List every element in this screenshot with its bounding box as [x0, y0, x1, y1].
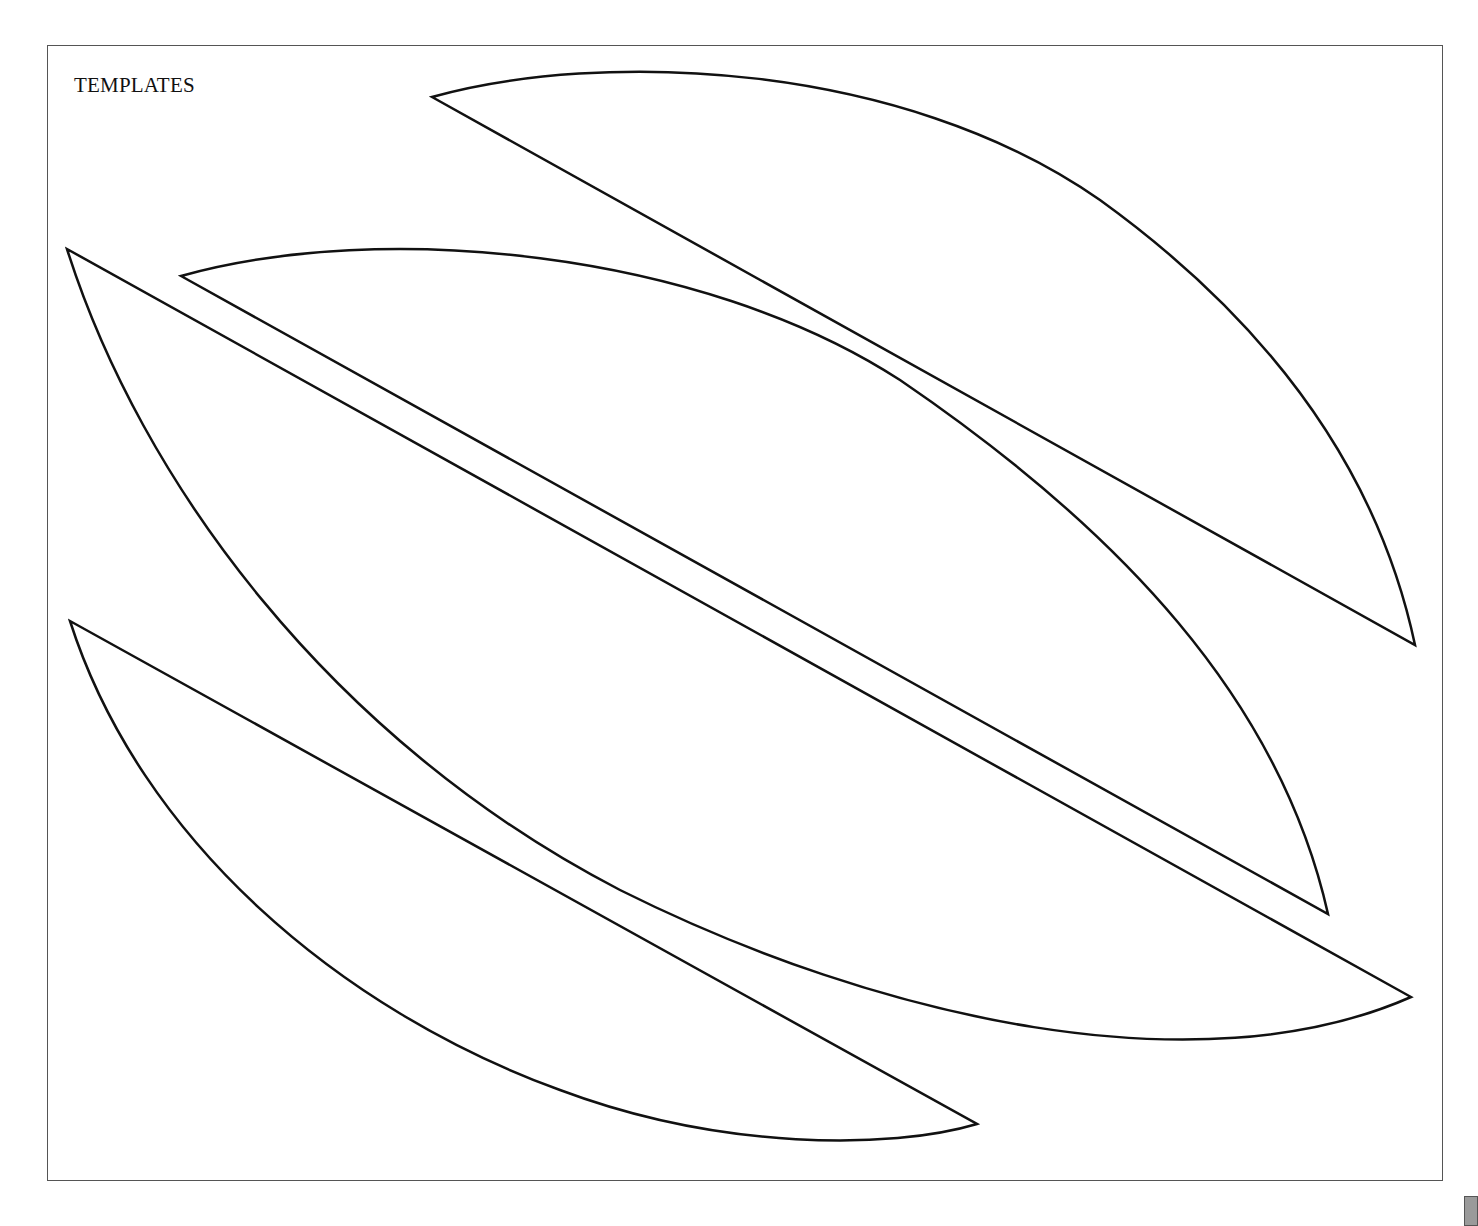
leaf-template-4: [70, 621, 977, 1141]
leaf-template-3: [67, 249, 1411, 1040]
page-corner-tab: [1464, 1196, 1478, 1226]
leaf-template-2: [181, 249, 1328, 914]
leaf-template-1: [432, 72, 1415, 645]
